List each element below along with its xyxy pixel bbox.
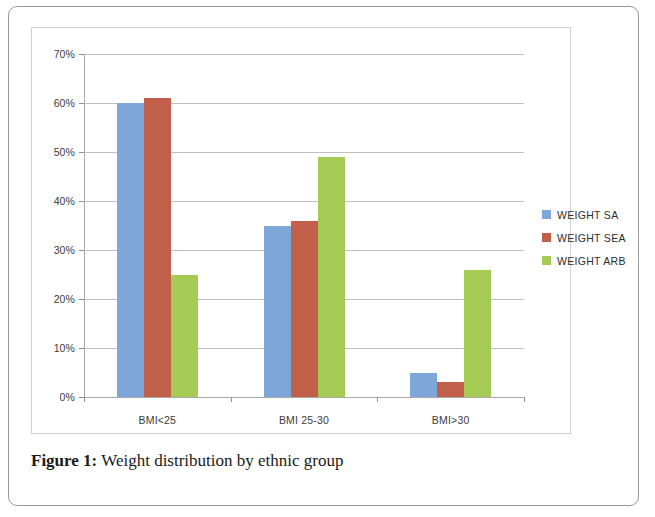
y-axis-label-20: 20% [54, 293, 75, 305]
figure-caption: Figure 1: Weight distribution by ethnic … [31, 451, 343, 471]
legend-item-label: WEIGHT SEA [557, 232, 626, 244]
chart-legend: WEIGHT SAWEIGHT SEAWEIGHT ARB [542, 203, 655, 272]
gridline-70 [84, 54, 524, 55]
y-axis-label-0: 0% [60, 391, 75, 403]
y-tick-mark-10 [79, 348, 84, 349]
bar-weight-sa-bmi-25 [117, 103, 144, 397]
figure-caption-label: Figure 1: [31, 451, 97, 470]
y-tick-mark-40 [79, 201, 84, 202]
y-tick-mark-30 [79, 250, 84, 251]
x-tick-mark-3 [524, 397, 525, 402]
bar-weight-arb-bmi-25 [171, 275, 198, 398]
bar-weight-sea-bmi-30 [437, 382, 464, 397]
y-axis-label-10: 10% [54, 342, 75, 354]
y-axis-line [84, 54, 85, 397]
legend-swatch-icon [542, 256, 551, 265]
chart-panel: 0%10%20%30%40%50%60%70% BMI<25BMI 25-30B… [31, 27, 571, 434]
x-axis-label-3: BMI>30 [432, 414, 470, 426]
bar-weight-arb-bmi-25-30 [318, 157, 345, 397]
y-axis-label-30: 30% [54, 244, 75, 256]
x-tick-mark-0 [84, 397, 85, 402]
x-axis-label-1: BMI<25 [138, 414, 176, 426]
x-axis-label-2: BMI 25-30 [279, 414, 329, 426]
y-axis-label-50: 50% [54, 146, 75, 158]
y-tick-mark-50 [79, 152, 84, 153]
legend-item-label: WEIGHT ARB [557, 255, 626, 267]
bar-weight-sa-bmi-25-30 [264, 226, 291, 398]
gridline-0 [84, 397, 524, 398]
bar-weight-sea-bmi-25 [144, 98, 171, 397]
figure-frame: 0%10%20%30%40%50%60%70% BMI<25BMI 25-30B… [8, 6, 639, 506]
y-tick-mark-70 [79, 54, 84, 55]
legend-swatch-icon [542, 210, 551, 219]
y-axis-label-60: 60% [54, 97, 75, 109]
x-tick-mark-1 [231, 397, 232, 402]
legend-swatch-icon [542, 233, 551, 242]
figure-caption-text: Weight distribution by ethnic group [97, 451, 343, 470]
bar-weight-sea-bmi-25-30 [291, 221, 318, 397]
bar-weight-sa-bmi-30 [410, 373, 437, 398]
legend-item-label: WEIGHT SA [557, 209, 618, 221]
y-tick-mark-20 [79, 299, 84, 300]
legend-item-weight-sea: WEIGHT SEA [542, 226, 655, 249]
plot-area: 0%10%20%30%40%50%60%70% BMI<25BMI 25-30B… [84, 54, 524, 397]
legend-item-weight-arb: WEIGHT ARB [542, 249, 655, 272]
y-axis-label-40: 40% [54, 195, 75, 207]
y-axis-label-70: 70% [54, 48, 75, 60]
legend-item-weight-sa: WEIGHT SA [542, 203, 655, 226]
y-tick-mark-60 [79, 103, 84, 104]
bar-weight-arb-bmi-30 [464, 270, 491, 397]
x-tick-mark-2 [377, 397, 378, 402]
